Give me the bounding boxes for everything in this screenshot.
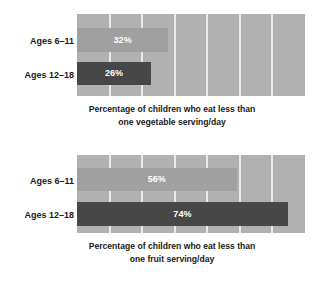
chart-vegetable: Ages 6–11 Ages 12–18 32% 26% Percentage … [0,0,320,140]
category-label-ages-6-11: Ages 6–11 [0,37,74,46]
chart-caption-vegetable: Percentage of children who eat less than… [52,103,292,128]
caption-line-1: Percentage of children who eat less than [52,103,292,116]
bar-value-ages-12-18: 74% [173,210,191,219]
plot-area-vegetable: 32% 26% [77,14,305,96]
gridline [271,14,273,96]
bar-ages-12-18: 74% [77,202,288,226]
gridline [174,14,176,96]
category-label-ages-6-11: Ages 6–11 [0,177,74,186]
bar-ages-6-11: 56% [77,168,237,191]
caption-line-1: Percentage of children who eat less than [52,240,292,253]
bar-value-ages-12-18: 26% [105,69,123,78]
category-label-ages-12-18: Ages 12–18 [0,71,74,80]
caption-line-2: one fruit serving/day [52,253,292,266]
bar-value-ages-6-11: 32% [113,36,131,45]
bar-ages-12-18: 26% [77,62,151,85]
caption-line-2: one vegetable serving/day [52,116,292,129]
chart-caption-fruit: Percentage of children who eat less than… [52,240,292,265]
category-label-ages-12-18: Ages 12–18 [0,211,74,220]
plot-area-fruit: 56% 74% [77,155,305,233]
bar-ages-6-11: 32% [77,28,168,52]
bar-value-ages-6-11: 56% [148,175,166,184]
chart-fruit: Ages 6–11 Ages 12–18 56% 74% Percentage … [0,140,320,283]
gridline [206,14,208,96]
gridline [239,14,241,96]
